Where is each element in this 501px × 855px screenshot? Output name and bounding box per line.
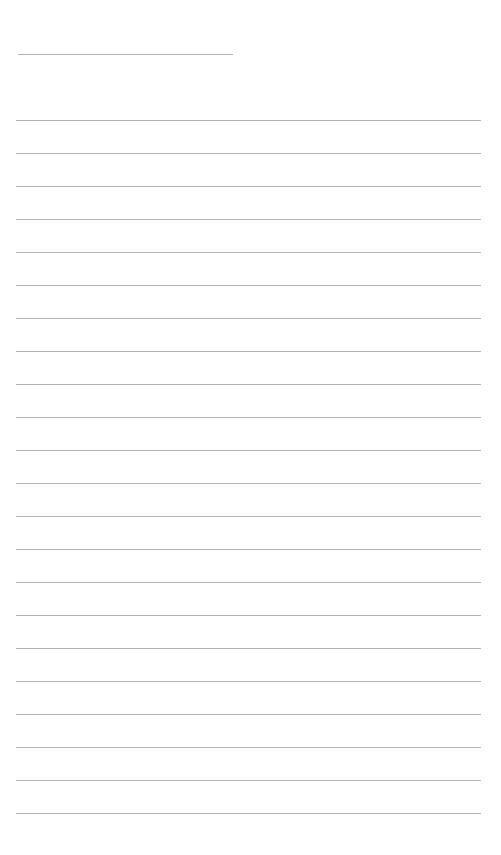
writing-line <box>16 483 481 484</box>
writing-line <box>16 714 481 715</box>
writing-line <box>16 648 481 649</box>
title-line <box>18 54 233 55</box>
writing-line <box>16 318 481 319</box>
writing-line <box>16 582 481 583</box>
writing-line <box>16 813 481 814</box>
writing-line <box>16 285 481 286</box>
writing-line <box>16 615 481 616</box>
writing-line <box>16 780 481 781</box>
writing-line <box>16 516 481 517</box>
writing-line <box>16 120 481 121</box>
writing-line <box>16 549 481 550</box>
writing-line <box>16 186 481 187</box>
writing-line <box>16 351 481 352</box>
writing-line <box>16 417 481 418</box>
writing-line <box>16 219 481 220</box>
writing-line <box>16 384 481 385</box>
writing-line <box>16 450 481 451</box>
writing-line <box>16 681 481 682</box>
writing-line <box>16 747 481 748</box>
writing-line <box>16 252 481 253</box>
writing-line <box>16 153 481 154</box>
lined-page <box>0 0 501 855</box>
